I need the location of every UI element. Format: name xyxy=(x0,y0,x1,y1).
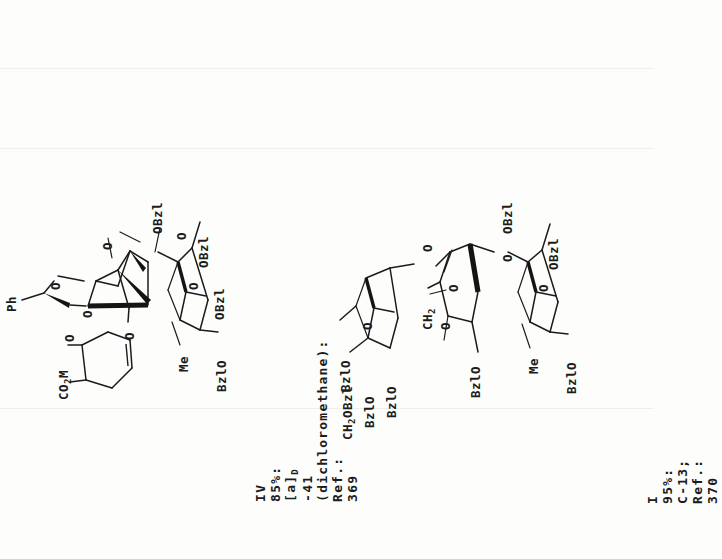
label-o-bridge-top-i: O xyxy=(420,244,435,252)
label-o-bridge-i: O xyxy=(438,322,453,330)
label-bzlo-i-2: BzlO xyxy=(362,396,377,428)
bridged-ring-i-right xyxy=(428,244,494,352)
entry-nmr-i: C-13; xyxy=(675,459,690,504)
label-obzl-i-1: OBzl xyxy=(500,202,515,234)
label-bzlo-i-1: BzlO xyxy=(338,360,353,392)
label-bzlo-i-5: BzlO xyxy=(564,362,579,394)
entry-number-i: I xyxy=(645,495,660,504)
label-ch2obzl-i: CH2OBzl xyxy=(340,386,357,440)
label-bzlo-i-3: BzlO xyxy=(384,386,399,418)
label-me-i: Me xyxy=(526,358,541,374)
glucopyranose-ring-i-left xyxy=(340,264,414,352)
label-bzlo-i-4: BzlO xyxy=(468,366,483,398)
label-o-rhamnose-i: O xyxy=(536,284,551,292)
entry-ref-number-i: 370 xyxy=(705,477,720,504)
label-o-ring-i-left: O xyxy=(360,322,375,330)
label-ch2-bridge-i: CH2 xyxy=(420,308,437,330)
label-o-glycosidic-i: O xyxy=(500,254,515,262)
label-obzl-i-2: OBzl xyxy=(546,238,561,270)
entry-yield-i: 95%: xyxy=(660,468,675,504)
label-o-ring-i-right: O xyxy=(446,284,461,292)
caption-entry-i: I 95%: C-13; Ref.: 370 xyxy=(630,450,722,540)
entry-ref-label-i: Ref.: xyxy=(690,459,705,504)
